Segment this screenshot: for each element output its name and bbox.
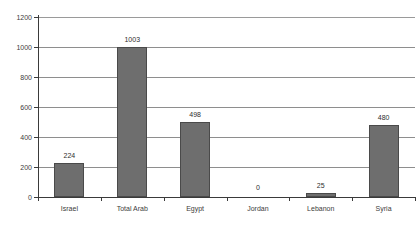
- y-tick-mark: [34, 17, 38, 18]
- bar-value-label: 480: [364, 114, 404, 122]
- bar: [117, 47, 147, 197]
- bar-value-label: 498: [175, 111, 215, 119]
- gridline: [38, 47, 415, 48]
- y-tick-label: 400: [0, 134, 32, 141]
- y-tick-label: 0: [0, 194, 32, 201]
- y-tick-label: 1000: [0, 44, 32, 51]
- gridline: [38, 137, 415, 138]
- category-label: Jordan: [223, 205, 293, 213]
- y-tick-label: 600: [0, 104, 32, 111]
- y-tick-mark: [34, 107, 38, 108]
- gridline: [38, 77, 415, 78]
- y-tick-mark: [34, 47, 38, 48]
- bar: [54, 163, 84, 197]
- bar-value-label: 25: [301, 182, 341, 190]
- y-tick-label: 200: [0, 164, 32, 171]
- bar: [369, 125, 399, 197]
- bar-value-label: 1003: [112, 36, 152, 44]
- y-axis-line: [38, 15, 39, 199]
- x-tick-mark: [38, 197, 39, 201]
- bar-value-label: 224: [49, 152, 89, 160]
- category-label: Syria: [349, 205, 419, 213]
- gridline: [38, 107, 415, 108]
- x-tick-mark: [352, 197, 353, 201]
- plot-area: [38, 17, 415, 197]
- bar: [180, 122, 210, 197]
- gridline: [38, 17, 415, 18]
- x-tick-mark: [227, 197, 228, 201]
- x-tick-mark: [289, 197, 290, 201]
- y-axis-tick-labels: 020040060080010001200: [0, 0, 36, 225]
- y-tick-label: 800: [0, 74, 32, 81]
- x-tick-mark: [164, 197, 165, 201]
- category-label: Total Arab: [97, 205, 167, 213]
- y-tick-mark: [34, 167, 38, 168]
- y-tick-mark: [34, 137, 38, 138]
- category-label: Lebanon: [286, 205, 356, 213]
- bar-value-label: 0: [238, 184, 278, 192]
- y-tick-label: 1200: [0, 14, 32, 21]
- category-label: Egypt: [160, 205, 230, 213]
- gridline: [38, 167, 415, 168]
- bar-chart: 020040060080010001200 2241003498025480 I…: [0, 0, 419, 225]
- x-tick-mark: [415, 197, 416, 201]
- y-tick-mark: [34, 77, 38, 78]
- x-tick-mark: [101, 197, 102, 201]
- category-label: Israel: [34, 205, 104, 213]
